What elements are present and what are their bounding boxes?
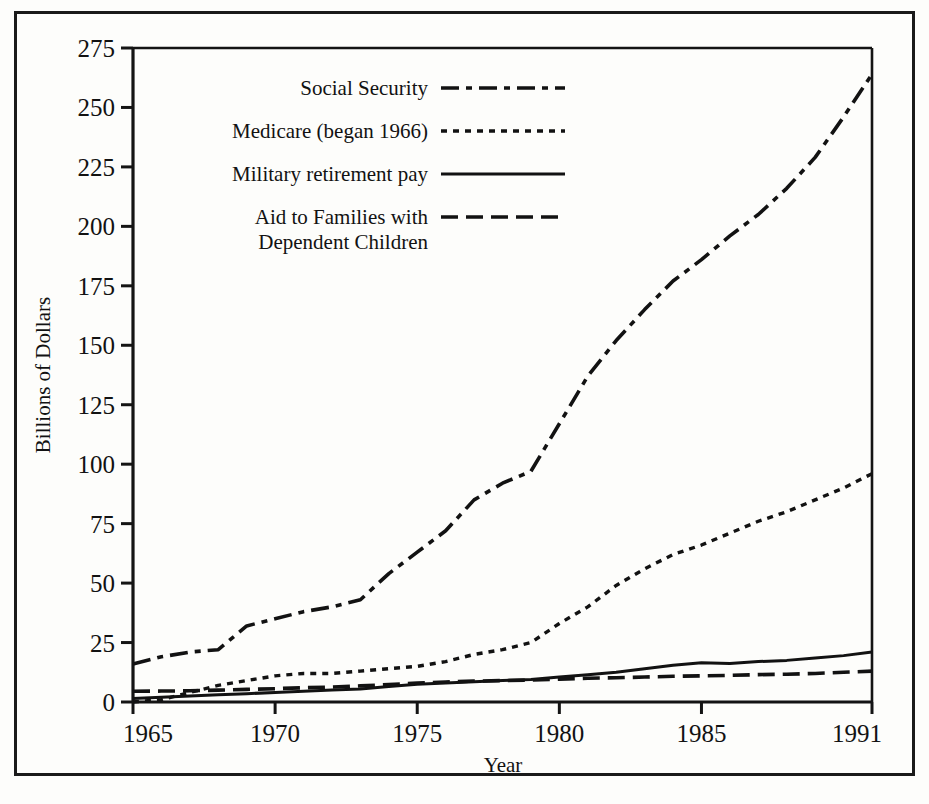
line-chart: 0255075100125150175200225250275 19651970… [0,0,929,804]
series-line-medicare-began-1966 [133,474,872,702]
legend-label-line2: Dependent Children [258,230,428,254]
y-axis: 0255075100125150175200225250275 [78,35,134,716]
x-tick-label: 1985 [676,720,726,747]
y-tick-label: 225 [78,154,116,181]
y-tick-label: 200 [78,213,116,240]
y-tick-label: 125 [78,392,116,419]
y-tick-label: 100 [78,451,116,478]
y-tick-label: 275 [78,35,116,62]
y-tick-label: 25 [90,630,115,657]
x-tick-label: 1980 [534,720,584,747]
y-tick-label: 175 [78,273,116,300]
x-tick-label: 1991 [832,720,882,747]
x-tick-label: 1965 [123,720,173,747]
y-tick-label: 250 [78,94,116,121]
y-tick-label: 0 [103,689,116,716]
chart-figure: 0255075100125150175200225250275 19651970… [0,0,929,804]
y-tick-label: 50 [90,570,115,597]
y-tick-label: 150 [78,332,116,359]
y-tick-label: 75 [90,511,115,538]
chart-legend: Social SecurityMedicare (began 1966)Mili… [232,76,565,254]
plot-frame [133,48,872,702]
y-axis-title: Billions of Dollars [31,297,55,453]
legend-label: Medicare (began 1966) [232,119,428,143]
legend-label: Military retirement pay [232,162,428,186]
x-axis: 196519701975198019851991 [123,702,882,747]
x-tick-label: 1975 [392,720,442,747]
legend-label: Social Security [300,76,428,100]
legend-label: Aid to Families with [255,205,429,229]
x-axis-title: Year [484,753,523,777]
x-tick-label: 1970 [250,720,300,747]
